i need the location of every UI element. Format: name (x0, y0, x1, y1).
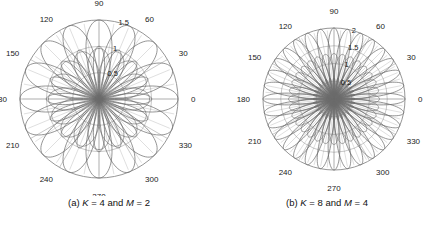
caption-a-m-symbol: M (126, 197, 134, 208)
radial-label-1.5: 1.5 (348, 43, 358, 52)
angular-label-300: 300 (145, 175, 159, 184)
figure-polar-rosettes: 03060901201501802102402703003300.511.5 (… (0, 0, 436, 227)
radial-label-1: 1 (344, 60, 348, 69)
angular-label-30: 30 (407, 53, 416, 62)
caption-b: (b) K = 8 and M = 4 (218, 196, 436, 209)
polar-axes-b: 03060901201501802102402703003300.511.52 (218, 0, 436, 196)
angular-label-180: 180 (0, 95, 8, 104)
angular-label-330: 330 (407, 137, 421, 146)
caption-a-k-value: = 4 and (89, 197, 126, 208)
angular-label-0: 0 (191, 95, 196, 104)
radial-label-1.5: 1.5 (118, 18, 128, 27)
radial-label-2: 2 (352, 26, 356, 35)
angular-label-60: 60 (145, 15, 154, 24)
angular-label-300: 300 (376, 168, 390, 177)
angular-label-150: 150 (6, 49, 20, 58)
radial-label-1: 1 (113, 44, 117, 53)
caption-b-m-value: = 4 (352, 197, 368, 208)
caption-a: (a) K = 4 and M = 2 (0, 196, 218, 209)
rosette-chord (45, 45, 99, 99)
angular-label-240: 240 (40, 175, 54, 184)
angular-label-90: 90 (330, 7, 339, 16)
rosette-chord (99, 99, 153, 153)
rosette-curves (263, 28, 405, 170)
angular-label-120: 120 (40, 15, 54, 24)
panel-a: 03060901201501802102402703003300.511.5 (… (0, 0, 218, 227)
panel-b: 03060901201501802102402703003300.511.52 … (218, 0, 436, 227)
polar-plot-b: 03060901201501802102402703003300.511.52 (218, 0, 436, 196)
angular-label-210: 210 (6, 141, 20, 150)
caption-b-m-symbol: M (344, 197, 352, 208)
angular-label-180: 180 (237, 95, 251, 104)
angular-label-150: 150 (248, 53, 262, 62)
caption-b-prefix: (b) (286, 197, 300, 208)
angular-label-120: 120 (279, 22, 293, 31)
radial-label-0.5: 0.5 (108, 69, 118, 78)
caption-a-prefix: (a) (68, 197, 82, 208)
angular-label-30: 30 (179, 49, 188, 58)
angular-label-0: 0 (418, 95, 423, 104)
caption-a-m-value: = 2 (134, 197, 150, 208)
angular-label-240: 240 (279, 168, 293, 177)
caption-b-k-value: = 8 and (307, 197, 344, 208)
polar-axes-a: 03060901201501802102402703003300.511.5 (0, 0, 218, 196)
angular-label-270: 270 (327, 184, 341, 193)
polar-plot-a: 03060901201501802102402703003300.511.5 (0, 0, 218, 196)
rosette-curves (20, 20, 178, 178)
radial-label-0.5: 0.5 (341, 78, 351, 87)
rosette-chord (45, 99, 99, 153)
angular-label-90: 90 (95, 0, 104, 8)
angular-label-60: 60 (376, 22, 385, 31)
angular-label-330: 330 (179, 141, 193, 150)
angular-label-210: 210 (248, 137, 262, 146)
